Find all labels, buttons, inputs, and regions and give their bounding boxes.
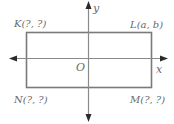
y-axis-up-arrow-icon [86, 1, 92, 9]
y-axis-down-arrow-icon [86, 114, 92, 122]
x-axis-label: x [156, 63, 163, 76]
vertex-m-label: M(?, ?) [129, 94, 165, 105]
y-axis-label: y [92, 2, 100, 15]
vertex-n-label: N(?, ?) [13, 94, 48, 105]
vertex-k-label: K(?, ?) [13, 18, 46, 29]
x-axis-right-arrow-icon [160, 56, 168, 62]
origin-label: O [76, 61, 85, 74]
x-axis-left-arrow-icon [9, 56, 17, 62]
vertex-l-label: L(a, b) [129, 19, 163, 30]
coordinate-diagram: y x O K(?, ?) L(a, b) M(?, ?) N(?, ?) [0, 0, 174, 124]
